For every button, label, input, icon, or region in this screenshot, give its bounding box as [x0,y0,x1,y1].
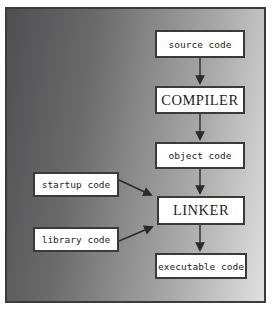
input-box-label: startup code [42,179,111,190]
flow-box-object-code: object code [155,142,245,169]
flow-box-compiler: COMPILER [155,86,245,114]
flow-box-source-code: source code [155,30,245,58]
flow-box-label: COMPILER [161,92,238,109]
input-box-startup-code: startup code [33,172,119,197]
flow-box-label: object code [169,150,232,161]
flow-box-linker: LINKER [157,196,245,225]
flow-box-executable-code: executable code [155,253,247,279]
diagram-page: source code COMPILER object code LINKER … [0,0,272,314]
flow-box-label: LINKER [173,202,229,219]
input-box-label: library code [42,234,111,245]
input-box-library-code: library code [33,227,119,252]
flow-box-label: source code [169,39,232,50]
flow-box-label: executable code [158,261,244,272]
